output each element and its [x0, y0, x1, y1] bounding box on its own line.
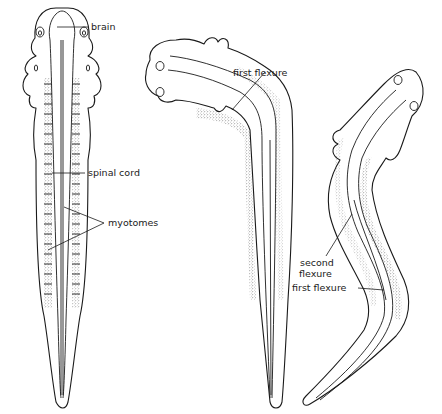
- neural-tube: [49, 11, 75, 398]
- otic-vesicle-left: [34, 65, 37, 71]
- otic-vesicle-right: [86, 65, 89, 71]
- myotomes-left: [44, 78, 52, 308]
- label-first-flexure-2: first flexure: [233, 67, 288, 78]
- label-second-flexure-line2: flexure: [299, 268, 332, 279]
- myotomes-right: [72, 78, 80, 308]
- neural-canal: [61, 40, 63, 395]
- neural-tube: [168, 56, 276, 398]
- eye-lower: [156, 88, 164, 97]
- label-first-flexure-3: first flexure: [292, 282, 347, 293]
- myotomes: [196, 108, 256, 300]
- body-outline: [303, 70, 423, 406]
- label-brain: brain: [91, 21, 115, 32]
- embryo-flexure-diagram: brain spinal cord myotomes first flexure…: [0, 0, 442, 414]
- myotomes-dorsal: [236, 66, 284, 300]
- embryo-first-flexure: [146, 38, 293, 408]
- label-myotomes: myotomes: [108, 217, 158, 228]
- embryo-second-flexure: [303, 70, 423, 406]
- neural-tube: [316, 90, 406, 400]
- label-second-flexure-line1: second: [300, 257, 334, 268]
- embryo-straight: [23, 8, 104, 408]
- eye-lower: [410, 102, 418, 111]
- eye-upper: [156, 62, 164, 71]
- eye-upper: [394, 76, 402, 85]
- label-spinal-cord: spinal cord: [88, 167, 140, 178]
